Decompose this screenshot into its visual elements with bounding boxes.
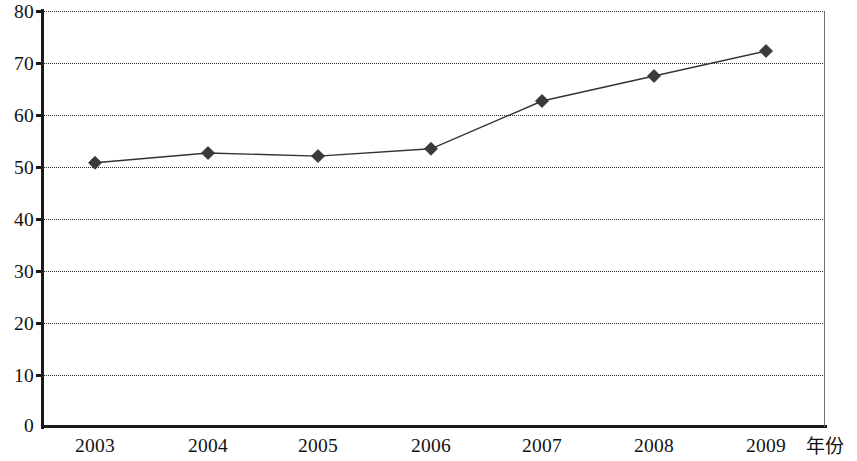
x-axis-label-2006: 2006 [411, 436, 451, 456]
series-polyline [95, 51, 766, 163]
x-axis-title: 年份 [806, 436, 844, 456]
gridline-80 [43, 11, 825, 12]
y-axis-label-50: 50 [2, 158, 34, 178]
x-axis-line [41, 425, 827, 428]
series-line-2003-2009 [0, 0, 857, 461]
plot-border-right [824, 11, 825, 427]
y-axis-label-40: 40 [2, 210, 34, 230]
x-axis-label-2007: 2007 [522, 436, 562, 456]
y-tick-60 [36, 114, 43, 117]
y-tick-10 [36, 374, 43, 377]
x-axis-label-2005: 2005 [298, 436, 338, 456]
data-point-2004 [202, 147, 215, 160]
data-point-2007 [536, 95, 549, 108]
y-axis-label-0: 0 [2, 416, 34, 436]
y-tick-40 [36, 218, 43, 221]
y-axis-label-60: 60 [2, 106, 34, 126]
data-point-2008 [648, 70, 661, 83]
y-axis-label-80: 80 [2, 2, 34, 22]
x-axis-label-2008: 2008 [634, 436, 674, 456]
gridline-60 [43, 115, 825, 116]
y-tick-30 [36, 270, 43, 273]
gridline-30 [43, 271, 825, 272]
y-axis-label-30: 30 [2, 262, 34, 282]
line-chart: 80 70 60 50 40 30 20 10 0 2003 2004 2005… [0, 0, 857, 461]
x-axis-label-2009: 2009 [746, 436, 786, 456]
y-tick-70 [36, 62, 43, 65]
y-axis-label-10: 10 [2, 366, 34, 386]
y-axis-label-20: 20 [2, 314, 34, 334]
gridline-20 [43, 323, 825, 324]
gridline-70 [43, 63, 825, 64]
gridline-10 [43, 375, 825, 376]
x-axis-label-2003: 2003 [75, 436, 115, 456]
y-tick-50 [36, 166, 43, 169]
y-axis-label-70: 70 [2, 54, 34, 74]
x-axis-label-2004: 2004 [188, 436, 228, 456]
y-axis-labels: 80 70 60 50 40 30 20 10 0 [0, 0, 34, 461]
gridline-40 [43, 219, 825, 220]
data-point-2006 [425, 142, 438, 155]
y-tick-20 [36, 322, 43, 325]
y-tick-80 [36, 10, 43, 13]
data-point-2009 [760, 45, 773, 58]
gridline-50 [43, 167, 825, 168]
data-point-2005 [312, 150, 325, 163]
